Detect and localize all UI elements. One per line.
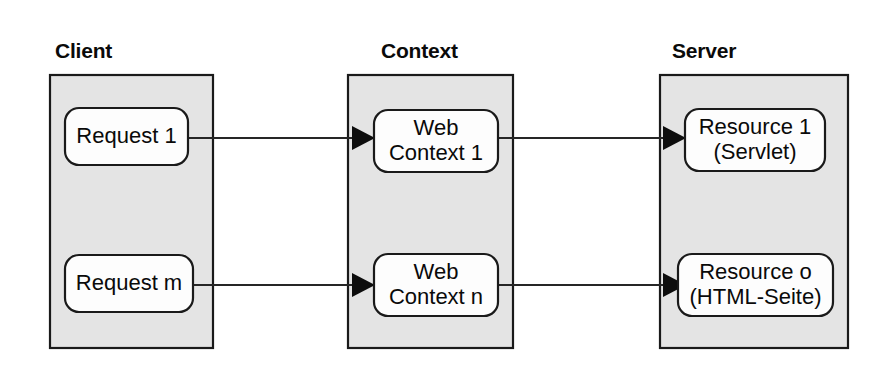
node-box-web-context-n[interactable]: [374, 254, 498, 316]
zone-title-server: Server: [672, 40, 736, 61]
zone-title-context: Context: [381, 40, 458, 61]
diagram-canvas-root: Client Context Server Request 1 Request …: [0, 0, 891, 373]
node-box-request-1[interactable]: [65, 108, 188, 165]
connection-ctx1-to-res1: [497, 126, 686, 150]
node-box-resource-1[interactable]: [685, 109, 825, 171]
connection-ctxn-to-reso: [497, 273, 686, 297]
node-box-web-context-1[interactable]: [374, 110, 498, 172]
zone-title-client: Client: [55, 40, 112, 61]
node-box-request-m[interactable]: [65, 255, 193, 312]
node-box-resource-o[interactable]: [678, 254, 833, 316]
